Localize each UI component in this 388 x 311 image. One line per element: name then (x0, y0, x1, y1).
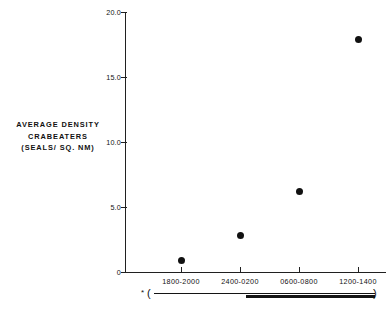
crabeater-seal-density-chart: AVERAGE DENSITY CRABEATERS (SEALS/ SQ. N… (0, 0, 388, 311)
x-axis-line (125, 272, 386, 273)
y-tick-mark (121, 77, 127, 78)
x-tick-label: 1200-1400 (339, 277, 377, 286)
y-tick-label: 15.0 (106, 73, 121, 82)
y-tick-label: 0 (117, 268, 121, 277)
x-tick-label: 0600-0800 (280, 277, 318, 286)
x-tick-mark (299, 267, 300, 273)
x-tick-mark (358, 267, 359, 273)
x-tick-label: 2400-0200 (221, 277, 259, 286)
y-tick-mark (121, 272, 127, 273)
paren-close: ) (373, 288, 377, 299)
night-bar-thin (154, 293, 375, 295)
data-point (355, 36, 362, 43)
x-tick-mark (181, 267, 182, 273)
y-axis-title: AVERAGE DENSITY CRABEATERS (SEALS/ SQ. N… (4, 119, 112, 154)
y-axis-title-line-2: CRABEATERS (4, 131, 112, 143)
x-tick-label: 1800-2000 (162, 277, 200, 286)
x-tick-mark (240, 267, 241, 273)
plot-area: 0 5.0 10.0 15.0 20.0 1800-2000 2400-0200 (125, 12, 385, 272)
data-point (178, 257, 185, 264)
y-tick-mark (121, 207, 127, 208)
data-point (296, 188, 303, 195)
data-point (237, 232, 244, 239)
y-axis-title-line-1: AVERAGE DENSITY (4, 119, 112, 131)
night-bar-thick (246, 295, 375, 298)
y-tick-label: 20.0 (106, 8, 121, 17)
y-tick-label: 5.0 (110, 203, 121, 212)
y-axis-title-line-3: (SEALS/ SQ. NM) (4, 142, 112, 154)
paren-open: ( (147, 288, 151, 299)
asterisk-marker: * (141, 288, 144, 298)
night-period-annotation: * ( ) (141, 288, 381, 308)
y-tick-label: 10.0 (106, 138, 121, 147)
y-tick-mark (121, 142, 127, 143)
y-tick-mark (121, 12, 127, 13)
